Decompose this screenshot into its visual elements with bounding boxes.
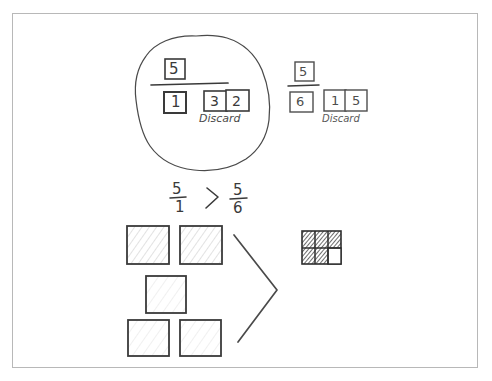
left-numerator-value: 5 — [169, 60, 179, 78]
text-layer: 5 1 3 2 Discard 5 6 1 5 Discard 5 1 5 6 — [0, 0, 492, 381]
left-denominator-value: 1 — [171, 93, 181, 111]
left-discard-tile-1-value: 3 — [210, 92, 219, 110]
right-denominator-value: 6 — [296, 93, 304, 110]
right-discard-tile-2-value: 5 — [352, 92, 360, 109]
right-numerator-value: 5 — [299, 63, 307, 80]
comparison-left-denominator: 1 — [175, 199, 185, 216]
left-discard-tile-2-value: 2 — [232, 92, 241, 110]
left-discard-label: Discard — [199, 112, 241, 126]
comparison-right-numerator: 5 — [233, 182, 243, 199]
comparison-right-denominator: 6 — [233, 200, 243, 217]
comparison-left-numerator: 5 — [172, 181, 182, 198]
whiteboard-canvas: 5 1 3 2 Discard 5 6 1 5 Discard 5 1 5 6 — [0, 0, 492, 381]
right-discard-label: Discard — [322, 112, 360, 125]
right-discard-tile-1-value: 1 — [331, 92, 339, 109]
